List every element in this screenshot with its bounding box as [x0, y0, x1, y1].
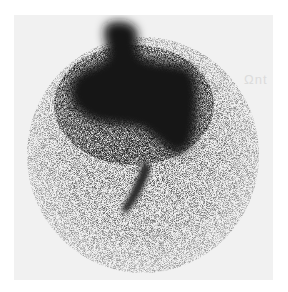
ghost-text: Ωnt	[244, 72, 268, 87]
scintigraphy-scan	[14, 15, 273, 280]
scan-image-panel: Ωnt	[14, 15, 273, 280]
